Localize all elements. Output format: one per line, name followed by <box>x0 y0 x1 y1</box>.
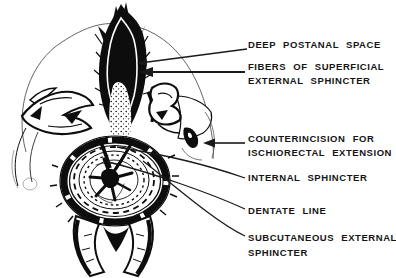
label-deep-postanal-space: DEEP POSTANAL SPACE <box>248 38 381 52</box>
label-subcutaneous-external-sphincter: SUBCUTANEOUS EXTERNAL SPHINCTER <box>248 230 396 260</box>
label-internal-sphincter: INTERNAL SPHINCTER <box>248 171 367 185</box>
label-counterincision-ischiorectal-extension: COUNTERINCISION FOR ISCHIORECTAL EXTENSI… <box>248 132 392 160</box>
anal-canal-drawing <box>50 136 179 229</box>
label-text: ISCHIORECTAL EXTENSION <box>248 146 392 160</box>
label-text: SUBCUTANEOUS EXTERNAL <box>248 230 396 245</box>
label-text: DENTATE LINE <box>248 204 326 218</box>
label-text: INTERNAL SPHINCTER <box>248 171 367 185</box>
label-text: FIBERS OF SUPERFICIAL <box>248 60 384 74</box>
leader-deep-postanal-space <box>137 49 247 66</box>
label-text: DEEP POSTANAL SPACE <box>248 38 381 52</box>
label-dentate-line: DENTATE LINE <box>248 204 326 218</box>
label-fibers-superficial-external-sphincter: FIBERS OF SUPERFICIAL EXTERNAL SPHINCTER <box>248 60 384 88</box>
leader-counterincision <box>203 139 245 148</box>
arrowhead-counterincision <box>203 139 215 148</box>
leader-fibers-superficial <box>139 67 245 77</box>
right-muscle-ribbon-drawing <box>148 84 214 161</box>
label-text: COUNTERINCISION FOR <box>248 132 392 146</box>
label-text: SPHINCTER <box>248 245 396 260</box>
figure-canvas: DEEP POSTANAL SPACE FIBERS OF SUPERFICIA… <box>0 0 396 278</box>
label-text: EXTERNAL SPHINCTER <box>248 74 384 88</box>
